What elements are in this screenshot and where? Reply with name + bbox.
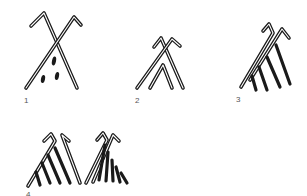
panel-3-glyph <box>241 24 290 90</box>
panel-label-3: 3 <box>236 96 240 104</box>
pendant-stroke <box>252 76 256 90</box>
drop-mark <box>40 75 46 84</box>
pendant-stroke <box>112 160 113 181</box>
panel-2-glyph <box>137 38 183 88</box>
figure-canvas <box>0 0 307 196</box>
panel-1-glyph <box>26 13 81 88</box>
pendant-stroke <box>267 57 280 87</box>
drop-mark <box>51 56 57 66</box>
staff-main <box>241 24 273 87</box>
pendant-stroke <box>276 45 290 84</box>
panel-4-glyph-right <box>86 133 127 183</box>
pendant-stroke <box>106 152 108 181</box>
staff-second <box>62 135 80 183</box>
pendant-stroke <box>42 163 50 183</box>
pendant-stroke <box>36 172 40 185</box>
panel-label-2: 2 <box>135 97 139 105</box>
drop-mark <box>54 72 60 81</box>
inner-chevron <box>150 65 172 88</box>
panel-4-glyph-left <box>28 134 80 186</box>
panel-label-4: 4 <box>26 191 30 196</box>
pendant-stroke <box>121 173 127 183</box>
pendant-stroke <box>259 67 267 90</box>
pendant-stroke <box>116 167 120 182</box>
panel-label-1: 1 <box>24 97 28 105</box>
